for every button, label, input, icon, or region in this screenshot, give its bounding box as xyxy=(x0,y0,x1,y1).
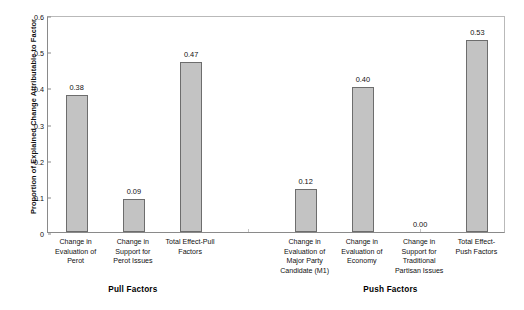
category-label-line: Perot xyxy=(47,257,104,267)
category-label-line: Candidate (M1) xyxy=(276,267,333,277)
x-axis-category-label: Change inSupport forPerot Issues xyxy=(104,238,161,267)
category-label-line: Economy xyxy=(333,257,390,267)
x-axis-category-label: Change inEvaluation ofPerot xyxy=(47,238,104,267)
bar-chart: Proportion of Explained Change Attributa… xyxy=(0,0,524,310)
x-axis-group-label: Push Factors xyxy=(276,285,505,294)
bar-value-label: 0.40 xyxy=(356,75,370,84)
category-label-line: Factors xyxy=(162,248,219,258)
bar[interactable] xyxy=(180,62,202,232)
y-axis-tick-label: 0.5 xyxy=(34,49,48,58)
plot-area: 0.60.50.40.30.20.10 0.380.090.470.120.40… xyxy=(47,16,505,233)
bar[interactable] xyxy=(466,40,488,232)
bar-value-label: 0.38 xyxy=(69,83,83,92)
y-axis-tick-label: 0.2 xyxy=(34,157,48,166)
bar[interactable] xyxy=(295,189,317,232)
bar[interactable] xyxy=(352,87,374,232)
bar-slot: 0.53 xyxy=(449,17,506,232)
category-label-line: Evaluation of xyxy=(276,248,333,258)
x-axis-category-label: Change inSupport forTraditionalPartisan … xyxy=(391,238,448,276)
x-axis-group-label: Pull Factors xyxy=(47,285,219,294)
x-axis-tick-mark xyxy=(420,229,421,232)
category-label-line: Major Party xyxy=(276,257,333,267)
category-label-line: Evaluation of xyxy=(47,248,104,258)
category-label-line: Push Factors xyxy=(448,248,505,258)
x-axis-category-label: Total Effect-PullFactors xyxy=(162,238,219,257)
category-label-line: Support for xyxy=(391,248,448,258)
bar-value-label: 0.53 xyxy=(470,28,484,37)
x-axis-category-label: Change inEvaluation ofEconomy xyxy=(333,238,390,267)
bar-value-label: 0.47 xyxy=(184,50,198,59)
x-axis-tick-mark xyxy=(248,229,249,232)
category-label-line: Traditional xyxy=(391,257,448,267)
bar-slot: 0.09 xyxy=(105,17,162,232)
y-axis-tick-label: 0.1 xyxy=(34,193,48,202)
category-label-line: Partisan Issues xyxy=(391,267,448,277)
category-label-line: Change in xyxy=(333,238,390,248)
category-label-line: Support for xyxy=(104,248,161,258)
bar-value-label: 0.12 xyxy=(298,177,312,186)
category-label-line: Total Effect-Pull xyxy=(162,238,219,248)
category-label-line: Change in xyxy=(391,238,448,248)
bar-slot: 0.00 xyxy=(392,17,449,232)
bar-slot: 0.40 xyxy=(334,17,391,232)
bar-value-label: 0.00 xyxy=(413,220,427,229)
bar-slot: 0.38 xyxy=(48,17,105,232)
y-axis-tick-label: 0.4 xyxy=(34,85,48,94)
y-axis-tick-mark xyxy=(48,234,51,235)
y-axis-tick-label: 0.6 xyxy=(34,13,48,22)
category-label-line: Perot Issues xyxy=(104,257,161,267)
category-label-line: Evaluation of xyxy=(333,248,390,258)
category-label-line: Change in xyxy=(104,238,161,248)
bar-slot: 0.47 xyxy=(163,17,220,232)
category-label-line: Change in xyxy=(47,238,104,248)
category-label-line: Change in xyxy=(276,238,333,248)
bar[interactable] xyxy=(66,95,88,232)
category-label-line: Total Effect- xyxy=(448,238,505,248)
x-axis-category-label: Total Effect-Push Factors xyxy=(448,238,505,257)
bar-slot xyxy=(220,17,277,232)
bar[interactable] xyxy=(123,199,145,232)
bar-value-label: 0.09 xyxy=(127,187,141,196)
bar-slot: 0.12 xyxy=(277,17,334,232)
x-axis-category-label: Change inEvaluation ofMajor PartyCandida… xyxy=(276,238,333,276)
y-axis-tick-label: 0.3 xyxy=(34,121,48,130)
